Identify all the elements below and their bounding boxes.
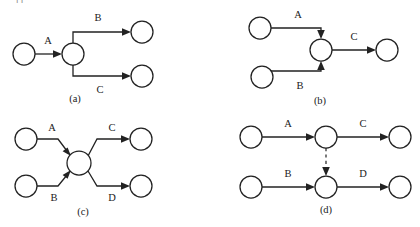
diagram-c-node-target-lower xyxy=(130,175,152,197)
diagram-a-edge-c xyxy=(73,65,131,80)
diagram-c-edge-c-line xyxy=(88,139,123,156)
diagram-a-label-a: A xyxy=(44,35,52,46)
diagram-d-label-a: A xyxy=(284,118,292,129)
activity-diagram-figure: A B C (a) xyxy=(0,0,420,227)
diagram-a-node-hub xyxy=(62,43,84,65)
diagram-c-label-c: C xyxy=(108,122,115,133)
diagram-d-node-source-lower xyxy=(240,176,262,198)
diagram-d-node-target-lower xyxy=(389,176,411,198)
diagram-a-edge-a xyxy=(35,50,62,58)
diagram-a-edge-b-arrowhead xyxy=(122,28,131,36)
diagram-d-edge-d xyxy=(337,183,389,191)
diagram-d-caption: (d) xyxy=(320,204,333,216)
diagram-a-edge-b xyxy=(73,28,131,43)
diagram-a-caption: (a) xyxy=(69,93,81,105)
diagram-b-node-target xyxy=(376,39,398,61)
diagram-d-edge-c xyxy=(337,133,389,141)
diagram-d-edge-sync-arrowhead xyxy=(322,167,330,176)
diagram-c: A B C D (c) xyxy=(15,122,152,218)
diagram-b-edge-b xyxy=(262,61,325,71)
diagram-c-label-a: A xyxy=(48,122,56,133)
diagram-a-edge-a-arrowhead xyxy=(53,50,62,58)
diagram-c-edge-d xyxy=(88,171,130,190)
diagram-b-edge-c-arrowhead xyxy=(367,46,376,54)
diagram-c-edge-d-line xyxy=(88,171,123,186)
diagram-b-label-a: A xyxy=(294,9,302,20)
diagram-c-node-hub xyxy=(67,151,91,175)
diagram-b-edge-a-arrowhead xyxy=(317,30,325,39)
diagram-c-label-b: B xyxy=(50,192,57,203)
diagram-d-node-hub-upper xyxy=(315,126,337,148)
diagram-c-caption: (c) xyxy=(77,206,89,218)
diagram-b-label-c: C xyxy=(350,31,357,42)
diagram-a-edge-b-line xyxy=(73,32,124,43)
diagram-d-node-source-upper xyxy=(240,126,262,148)
diagram-c-node-source-upper xyxy=(15,128,37,150)
diagram-c-node-target-upper xyxy=(130,128,152,150)
diagram-d-edge-b xyxy=(262,183,315,191)
diagram-a-node-target-upper xyxy=(131,21,153,43)
diagram-c-edge-c xyxy=(88,135,130,156)
diagram-c-edge-d-arrowhead xyxy=(121,182,130,190)
diagram-d: A C B D xyxy=(240,118,411,216)
diagram-c-edge-c-arrowhead xyxy=(121,135,130,143)
diagram-d-edge-a xyxy=(262,133,315,141)
diagram-c-edge-a xyxy=(37,139,71,156)
diagram-b-edge-a xyxy=(271,28,325,39)
diagram-b-caption: (b) xyxy=(314,95,327,107)
diagram-a-node-target-lower xyxy=(131,65,153,87)
diagram-d-edge-a-arrowhead xyxy=(306,133,315,141)
diagram-d-label-c: C xyxy=(359,118,366,129)
diagram-d-node-hub-lower xyxy=(315,176,337,198)
diagram-c-label-d: D xyxy=(108,192,116,203)
diagram-b-edge-a-line xyxy=(271,28,321,33)
diagram-c-edge-b-line xyxy=(37,175,67,186)
diagram-a-node-source xyxy=(13,43,35,65)
diagram-b: A B C (b) xyxy=(249,9,398,107)
diagram-d-edge-b-arrowhead xyxy=(306,183,315,191)
diagram-b-edge-c xyxy=(332,46,376,54)
diagram-a-edge-c-arrowhead xyxy=(122,72,131,80)
diagram-d-label-d: D xyxy=(359,168,367,179)
diagram-d-edge-c-arrowhead xyxy=(380,133,389,141)
figure-root: —件— · ·· ···· ·········· A B C xyxy=(0,0,420,227)
diagram-d-label-b: B xyxy=(284,168,291,179)
diagram-c-node-source-lower xyxy=(15,175,37,197)
diagram-c-edge-a-line xyxy=(37,139,67,151)
diagram-d-node-target-upper xyxy=(389,126,411,148)
diagram-c-edge-b xyxy=(37,170,71,186)
diagram-b-node-hub xyxy=(310,39,332,61)
diagram-b-node-source-upper xyxy=(249,17,271,39)
diagram-b-edge-b-arrowhead xyxy=(317,61,325,70)
diagram-a: A B C (a) xyxy=(13,12,153,105)
diagram-a-label-b: B xyxy=(94,12,101,23)
diagram-a-edge-c-line xyxy=(73,65,124,76)
diagram-b-node-source-lower xyxy=(251,66,273,88)
diagram-d-edge-sync-dashed xyxy=(322,148,330,176)
diagram-b-label-b: B xyxy=(296,80,303,91)
diagram-a-label-c: C xyxy=(96,84,103,95)
diagram-d-edge-d-arrowhead xyxy=(380,183,389,191)
